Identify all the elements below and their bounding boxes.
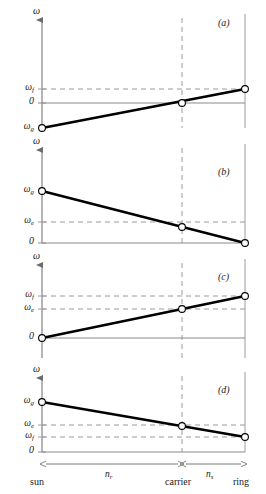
panel-d-axis-label: ω <box>33 364 40 374</box>
bottom-label-carrier: carrier <box>165 477 191 487</box>
panel-a <box>38 14 248 131</box>
panel-d-tick-omega-e: ωe <box>6 419 34 430</box>
span-label-ns: ns <box>206 470 213 481</box>
panel-b-tick-omega-e: ωe <box>6 216 34 227</box>
panel-d-tick-zero: 0 <box>6 445 34 455</box>
bottom-label-ring: ring <box>233 477 249 487</box>
panel-a-tick-omega-f: ωf <box>6 83 34 94</box>
panel-c-axis-label: ω <box>33 251 40 261</box>
panel-a-tick-zero: 0 <box>6 96 34 106</box>
panel-b-axis-label: ω <box>33 136 40 146</box>
panel-d-tag: (d) <box>218 385 230 395</box>
panel-a-tag: (a) <box>218 18 230 28</box>
panel-c-tick-omega-e: ωe <box>6 303 34 314</box>
bottom-label-sun: sun <box>30 477 44 487</box>
panel-d <box>38 372 248 452</box>
panel-c-tag: (c) <box>218 272 229 282</box>
panel-a-axis-label: ω <box>33 6 40 16</box>
plot-canvas <box>0 0 266 494</box>
span-label-nr: nr <box>105 470 112 481</box>
panel-b-tick-zero: 0 <box>6 236 34 246</box>
panel-c <box>38 259 248 358</box>
panel-c-tick-omega-f: ωf <box>6 290 34 301</box>
panel-d-tick-omega-f: ωf <box>6 431 34 442</box>
panel-d-tick-omega-g: ωg <box>6 396 34 407</box>
panel-c-tick-zero: 0 <box>6 331 34 341</box>
panel-b <box>38 144 248 246</box>
panel-b-tag: (b) <box>218 167 230 177</box>
panel-a-tick-omega-g: ωg <box>6 122 34 133</box>
panel-b-tick-omega-g: ωg <box>6 185 34 196</box>
angular-velocity-figure: ω ωf 0 ωg (a) ω ωg ωe 0 (b) ω ωf ωe 0 (c… <box>0 0 266 494</box>
